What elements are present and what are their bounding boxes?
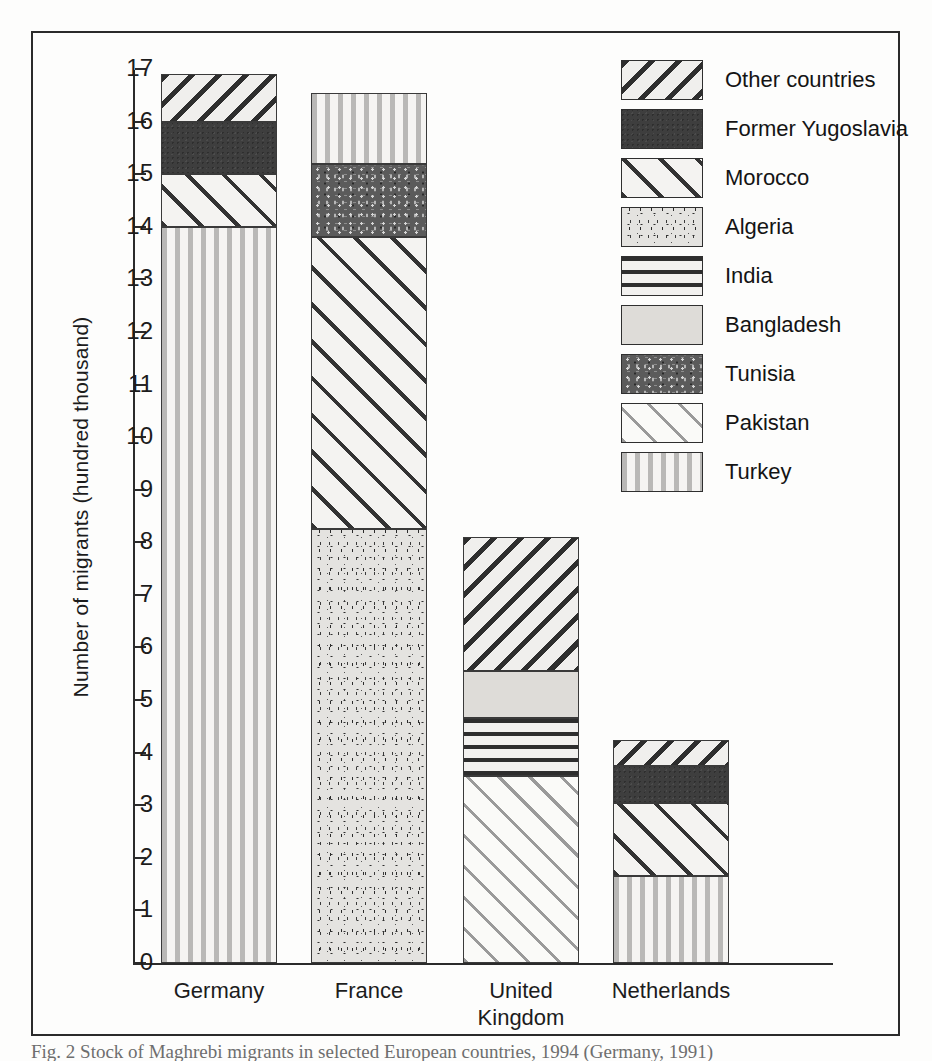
legend-swatch-former-yugoslavia (621, 109, 703, 149)
y-tick-label-5: 5 (109, 687, 153, 711)
legend-label: Algeria (725, 214, 793, 240)
y-tick-label-9: 9 (109, 477, 153, 501)
y-tick-label-4: 4 (109, 740, 153, 764)
bar-segment-germany-turkey[interactable] (161, 227, 277, 963)
y-tick-label-12: 12 (109, 319, 153, 343)
y-tick-label-11: 11 (109, 372, 153, 396)
legend-item-other-countries[interactable]: Other countries (621, 55, 891, 104)
legend-item-morocco[interactable]: Morocco (621, 153, 891, 202)
y-tick-label-10: 10 (109, 424, 153, 448)
figure-page: 01234567891011121314151617 Number of mig… (0, 0, 932, 1061)
x-axis-line (133, 963, 833, 965)
legend-label: Tunisia (725, 361, 795, 387)
x-axis-label-netherlands: Netherlands (571, 978, 771, 1005)
x-axis-label-line: Netherlands (571, 978, 771, 1005)
figure-caption: Fig. 2 Stock of Maghrebi migrants in sel… (31, 1041, 911, 1061)
legend-item-tunisia[interactable]: Tunisia (621, 349, 891, 398)
legend-swatch-algeria (621, 207, 703, 247)
bar-segment-united-kingdom-pakistan[interactable] (463, 776, 579, 963)
legend-swatch-other-countries (621, 60, 703, 100)
bar-segment-netherlands-former-yugoslavia[interactable] (613, 766, 729, 803)
legend-label: Former Yugoslavia (725, 116, 908, 142)
bar-segment-france-morocco[interactable] (311, 237, 427, 529)
y-tick-label-17: 17 (109, 56, 153, 80)
y-tick-label-0: 0 (109, 950, 153, 974)
bar-segment-united-kingdom-other-countries[interactable] (463, 537, 579, 671)
legend-swatch-turkey (621, 452, 703, 492)
legend-item-former-yugoslavia[interactable]: Former Yugoslavia (621, 104, 891, 153)
y-tick-label-8: 8 (109, 529, 153, 553)
legend-label: Bangladesh (725, 312, 841, 338)
legend-swatch-tunisia (621, 354, 703, 394)
y-tick-label-16: 16 (109, 109, 153, 133)
x-axis-label-line: Kingdom (421, 1005, 621, 1032)
legend-swatch-india (621, 256, 703, 296)
legend-item-bangladesh[interactable]: Bangladesh (621, 300, 891, 349)
legend-item-algeria[interactable]: Algeria (621, 202, 891, 251)
legend-swatch-pakistan (621, 403, 703, 443)
legend-item-turkey[interactable]: Turkey (621, 447, 891, 496)
bar-netherlands[interactable] (613, 740, 729, 964)
y-axis-title: Number of migrants (hundred thousand) (69, 127, 93, 887)
legend-item-india[interactable]: India (621, 251, 891, 300)
y-tick-label-6: 6 (109, 634, 153, 658)
bar-segment-france-turkey[interactable] (311, 93, 427, 164)
legend-label: Other countries (725, 67, 875, 93)
bar-segment-united-kingdom-india[interactable] (463, 718, 579, 776)
bar-united-kingdom[interactable] (463, 537, 579, 963)
y-tick-label-13: 13 (109, 266, 153, 290)
bar-segment-netherlands-morocco[interactable] (613, 803, 729, 877)
legend: Other countriesFormer YugoslaviaMoroccoA… (621, 55, 891, 496)
legend-item-pakistan[interactable]: Pakistan (621, 398, 891, 447)
y-tick-label-2: 2 (109, 845, 153, 869)
y-axis-ticks: 01234567891011121314151617 (33, 33, 153, 1038)
bar-segment-netherlands-other-countries[interactable] (613, 740, 729, 766)
figure-frame: 01234567891011121314151617 Number of mig… (31, 31, 900, 1036)
legend-label: Pakistan (725, 410, 809, 436)
legend-label: India (725, 263, 773, 289)
bar-germany[interactable] (161, 74, 277, 963)
y-tick-label-15: 15 (109, 161, 153, 185)
bar-segment-united-kingdom-bangladesh[interactable] (463, 671, 579, 718)
y-tick-label-14: 14 (109, 214, 153, 238)
legend-swatch-bangladesh (621, 305, 703, 345)
legend-label: Morocco (725, 165, 809, 191)
bar-france[interactable] (311, 93, 427, 963)
bar-segment-netherlands-turkey[interactable] (613, 876, 729, 963)
y-tick-label-7: 7 (109, 582, 153, 606)
y-tick-label-3: 3 (109, 792, 153, 816)
y-tick-label-1: 1 (109, 897, 153, 921)
bar-segment-france-algeria[interactable] (311, 529, 427, 963)
bar-segment-germany-former-yugoslavia[interactable] (161, 122, 277, 175)
bar-segment-germany-morocco[interactable] (161, 174, 277, 227)
legend-swatch-morocco (621, 158, 703, 198)
bar-segment-france-tunisia[interactable] (311, 164, 427, 238)
bar-segment-germany-other-countries[interactable] (161, 74, 277, 121)
legend-label: Turkey (725, 459, 791, 485)
